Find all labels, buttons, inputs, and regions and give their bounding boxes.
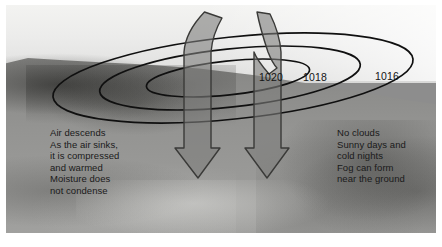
terrain-texture-upper [26, 65, 236, 135]
caption-weather-effects: No clouds Sunny days and cold nights Fog… [337, 127, 406, 185]
caption-descending-air: Air descends As the air sinks, it is com… [50, 127, 119, 197]
isobar-label-1016: 1016 [375, 70, 399, 82]
isobar-label-1018: 1018 [303, 71, 327, 83]
isobar-label-1020: 1020 [259, 71, 283, 83]
landscape-photo [6, 5, 436, 233]
weather-diagram: 1020 1018 1016 Air descends As the air s… [0, 0, 442, 247]
